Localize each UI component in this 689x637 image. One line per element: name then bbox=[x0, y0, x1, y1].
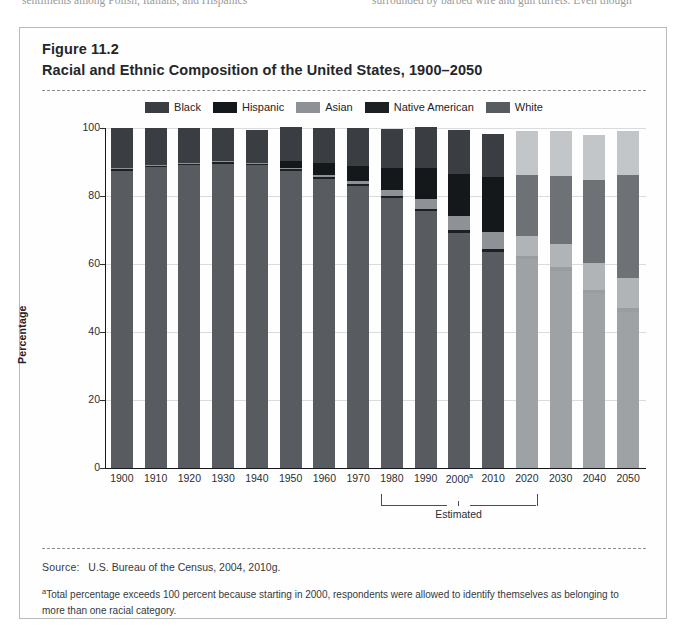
legend-label: Native American bbox=[394, 101, 474, 113]
legend-swatch-icon bbox=[213, 102, 237, 113]
bar-segment-hispanic bbox=[313, 163, 335, 175]
legend-label: Black bbox=[174, 101, 201, 113]
chart-legend: BlackHispanicAsianNative AmericanWhite bbox=[20, 101, 668, 113]
plot-area: Percentage 020406080100 1900191019201930… bbox=[20, 128, 668, 548]
bar-segment-hispanic bbox=[415, 168, 437, 199]
x-tick-label-2050: 2050 bbox=[606, 472, 650, 484]
bar-segment-black bbox=[313, 128, 335, 164]
legend-item-white: White bbox=[486, 101, 543, 113]
y-tick-mark bbox=[100, 400, 105, 401]
bar-1940[interactable] bbox=[246, 130, 268, 468]
legend-item-asian: Asian bbox=[296, 101, 353, 113]
y-axis-label: Percentage bbox=[16, 305, 28, 364]
estimated-label: Estimated bbox=[381, 508, 536, 520]
bar-segment-hispanic bbox=[280, 161, 302, 168]
source-value: U.S. Bureau of the Census, 2004, 2010g. bbox=[88, 561, 280, 573]
bracket-line-left bbox=[381, 505, 447, 506]
legend-item-black: Black bbox=[145, 101, 201, 113]
bar-segment-white bbox=[178, 165, 200, 468]
bleed-text-left: sentiments among Polish, Italians, and H… bbox=[22, 0, 247, 6]
y-tick-mark bbox=[100, 332, 105, 333]
bar-segment-white bbox=[246, 165, 268, 468]
bar-segment-black bbox=[516, 131, 538, 175]
bar-segment-black bbox=[280, 127, 302, 161]
bar-segment-asian bbox=[617, 278, 639, 309]
bar-segment-black bbox=[381, 129, 403, 169]
legend-item-hispanic: Hispanic bbox=[213, 101, 284, 113]
bar-segment-black bbox=[347, 128, 369, 166]
legend-swatch-icon bbox=[296, 102, 320, 113]
x-axis-ticks: 1900191019201930194019501960197019801990… bbox=[105, 472, 645, 488]
bar-1900[interactable] bbox=[111, 128, 133, 468]
y-axis-ticks: 020406080100 bbox=[66, 128, 100, 468]
bar-group bbox=[105, 128, 645, 468]
bar-segment-asian bbox=[550, 244, 572, 267]
bar-segment-hispanic bbox=[550, 176, 572, 244]
bar-2010[interactable] bbox=[482, 134, 504, 468]
y-tick-label: 80 bbox=[66, 189, 100, 201]
bar-segment-hispanic bbox=[617, 175, 639, 278]
bracket-center-tick bbox=[458, 501, 459, 506]
bar-2050[interactable] bbox=[617, 131, 639, 468]
bar-segment-white bbox=[313, 179, 335, 468]
figure-title: Racial and Ethnic Composition of the Uni… bbox=[42, 62, 482, 78]
bar-2000[interactable] bbox=[448, 130, 470, 468]
bar-1930[interactable] bbox=[212, 128, 234, 468]
y-tick-label: 40 bbox=[66, 325, 100, 337]
bar-1910[interactable] bbox=[145, 128, 167, 468]
bar-2040[interactable] bbox=[583, 135, 605, 468]
legend-swatch-icon bbox=[145, 102, 169, 113]
bar-2020[interactable] bbox=[516, 131, 538, 468]
bar-segment-hispanic bbox=[381, 168, 403, 190]
legend-label: Hispanic bbox=[242, 101, 284, 113]
bar-segment-hispanic bbox=[347, 166, 369, 181]
bar-segment-hispanic bbox=[448, 174, 470, 217]
bar-1970[interactable] bbox=[347, 128, 369, 468]
bar-segment-black bbox=[583, 135, 605, 180]
y-tick-label: 0 bbox=[66, 461, 100, 473]
x-tick-text: 2000 bbox=[446, 473, 469, 485]
bar-segment-black bbox=[212, 128, 234, 161]
bar-1950[interactable] bbox=[280, 127, 302, 468]
bar-segment-black bbox=[111, 128, 133, 168]
bar-segment-white bbox=[516, 259, 538, 468]
bar-segment-asian bbox=[415, 199, 437, 209]
source-line: Source: U.S. Bureau of the Census, 2004,… bbox=[42, 561, 280, 573]
bar-segment-black bbox=[617, 131, 639, 175]
bar-1980[interactable] bbox=[381, 129, 403, 468]
bar-segment-black bbox=[550, 131, 572, 176]
bar-segment-black bbox=[415, 127, 437, 168]
y-tick-mark bbox=[100, 264, 105, 265]
page-bleed-text: sentiments among Polish, Italians, and H… bbox=[0, 0, 689, 24]
bar-segment-asian bbox=[482, 232, 504, 248]
bar-segment-white bbox=[583, 293, 605, 468]
legend-swatch-icon bbox=[486, 102, 510, 113]
bar-segment-white bbox=[347, 186, 369, 468]
y-tick-label: 60 bbox=[66, 257, 100, 269]
bar-1960[interactable] bbox=[313, 128, 335, 468]
bar-segment-white bbox=[145, 167, 167, 468]
legend-swatch-icon bbox=[365, 102, 389, 113]
figure-container: Figure 11.2 Racial and Ethnic Compositio… bbox=[19, 27, 667, 619]
bar-1920[interactable] bbox=[178, 128, 200, 468]
legend-item-native-american: Native American bbox=[365, 101, 474, 113]
divider-top bbox=[42, 90, 646, 91]
bar-segment-black bbox=[178, 128, 200, 163]
divider-bottom bbox=[42, 548, 646, 549]
footnote-text: Total percentage exceeds 100 percent bec… bbox=[42, 589, 619, 616]
source-key: Source: bbox=[42, 561, 80, 573]
bar-segment-asian bbox=[448, 216, 470, 230]
bar-segment-white bbox=[448, 233, 470, 468]
bleed-text-right: surrounded by barbed wire and gun turret… bbox=[372, 0, 632, 6]
y-tick-mark bbox=[100, 196, 105, 197]
bar-segment-white bbox=[212, 164, 234, 468]
bar-segment-white bbox=[617, 312, 639, 468]
bar-1990[interactable] bbox=[415, 127, 437, 468]
bar-segment-white bbox=[415, 211, 437, 468]
bar-segment-asian bbox=[516, 236, 538, 256]
bar-2030[interactable] bbox=[550, 131, 572, 468]
bar-segment-hispanic bbox=[583, 180, 605, 263]
bar-segment-black bbox=[246, 130, 268, 163]
y-tick-label: 100 bbox=[66, 121, 100, 133]
y-tick-mark bbox=[100, 468, 105, 469]
